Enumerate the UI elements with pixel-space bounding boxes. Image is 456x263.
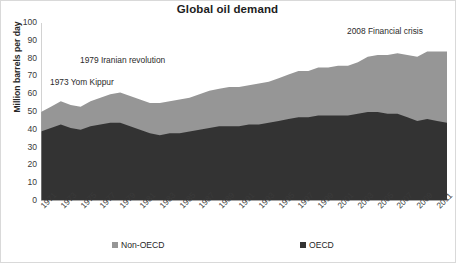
y-tick-label: 70	[13, 71, 37, 80]
chart-annotation: 1979 Iranian revolution	[80, 56, 165, 64]
legend-item[interactable]: OECD	[300, 240, 334, 250]
chart-annotation: 1973 Yom Kippur	[50, 78, 114, 86]
legend-swatch-icon	[300, 242, 306, 248]
y-tick-label: 100	[13, 18, 37, 27]
y-axis-ticks: 0102030405060708090100	[11, 0, 37, 262]
area-chart-svg	[41, 23, 447, 201]
y-tick-label: 30	[13, 143, 37, 152]
y-tick-label: 90	[13, 36, 37, 45]
y-tick-label: 40	[13, 125, 37, 134]
chart-title: Global oil demand	[0, 3, 455, 15]
series-group	[41, 51, 447, 201]
legend-swatch-icon	[112, 242, 118, 248]
legend-label: OECD	[309, 240, 334, 250]
y-tick-label: 0	[13, 196, 37, 205]
chart-legend: Non-OECDOECD	[0, 240, 455, 254]
y-tick-label: 80	[13, 54, 37, 63]
series-area-oecd	[41, 112, 447, 201]
legend-label: Non-OECD	[121, 240, 164, 250]
y-tick-label: 10	[13, 178, 37, 187]
plot-area	[41, 23, 447, 201]
y-tick-label: 50	[13, 107, 37, 116]
legend-item[interactable]: Non-OECD	[112, 240, 164, 250]
y-tick-label: 60	[13, 89, 37, 98]
y-tick-label: 20	[13, 160, 37, 169]
chart-annotation: 2008 Financial crisis	[347, 27, 423, 35]
